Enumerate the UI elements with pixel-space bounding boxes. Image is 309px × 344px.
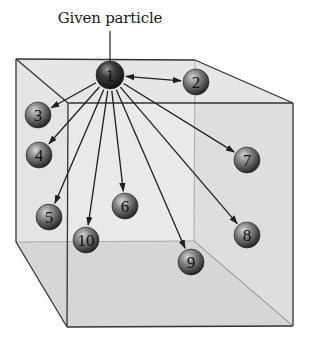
particle-label: 1 (106, 66, 115, 85)
particle-cube-diagram: 12345678910 (0, 0, 309, 344)
particle-label: 3 (34, 106, 43, 125)
particle-7: 7 (234, 147, 260, 173)
particle-9: 9 (178, 249, 204, 275)
particle-label: 2 (192, 73, 201, 92)
particle-label: 6 (121, 197, 130, 216)
particle-6: 6 (112, 193, 138, 219)
particle-label: 10 (78, 231, 95, 250)
particle-5: 5 (36, 204, 62, 230)
particle-1: 1 (96, 61, 124, 89)
particle-10: 10 (73, 227, 99, 253)
cube (16, 59, 293, 327)
particle-label: 8 (243, 226, 252, 245)
particle-label: 9 (187, 253, 196, 272)
particle-label: 4 (35, 146, 44, 165)
particle-label: 7 (243, 151, 252, 170)
particle-2: 2 (183, 69, 209, 95)
particle-8: 8 (234, 222, 260, 248)
particle-3: 3 (25, 102, 51, 128)
particle-4: 4 (26, 142, 52, 168)
particle-label: 5 (45, 208, 54, 227)
